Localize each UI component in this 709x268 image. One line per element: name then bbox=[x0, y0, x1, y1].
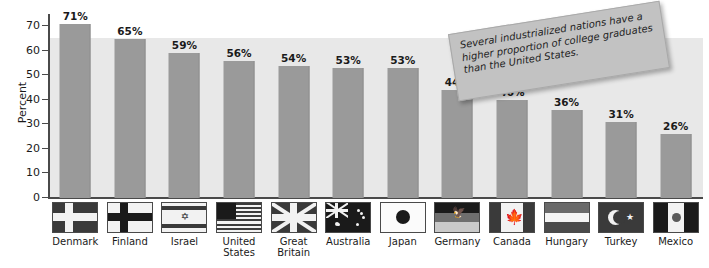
flag-australia-icon bbox=[325, 202, 371, 233]
bar bbox=[660, 134, 691, 198]
bar-group: 65% bbox=[103, 14, 158, 198]
category-cell: 🦅Germany bbox=[430, 202, 485, 247]
category-axis-labels: DenmarkFinland✡IsraelUnited StatesGreat … bbox=[48, 202, 703, 268]
flag-turkey-icon: ★ bbox=[598, 202, 644, 233]
category-cell: Denmark bbox=[48, 202, 103, 247]
bar-group: 53% bbox=[321, 14, 376, 198]
y-tick-label: 0 bbox=[14, 191, 40, 204]
category-label: Israel bbox=[157, 236, 212, 247]
flag-israel-icon: ✡ bbox=[161, 202, 207, 233]
category-label: Germany bbox=[430, 236, 485, 247]
bar-value-label: 53% bbox=[336, 54, 361, 66]
category-label: Canada bbox=[485, 236, 540, 247]
bar-group: 54% bbox=[266, 14, 321, 198]
category-cell: 🍁Canada bbox=[485, 202, 540, 247]
flag-canada-icon: 🍁 bbox=[489, 202, 535, 233]
flag-great-britain-icon bbox=[271, 202, 317, 233]
category-label: Great Britain bbox=[266, 236, 321, 258]
bar-value-label: 31% bbox=[609, 108, 634, 120]
bar bbox=[442, 90, 473, 198]
flag-united-states-icon bbox=[216, 202, 262, 233]
bar-value-label: 71% bbox=[63, 10, 88, 22]
bar-value-label: 59% bbox=[172, 39, 197, 51]
category-cell: ✡Israel bbox=[157, 202, 212, 247]
bar bbox=[278, 66, 309, 198]
bar-group: 56% bbox=[212, 14, 267, 198]
category-cell: Great Britain bbox=[266, 202, 321, 258]
bar bbox=[387, 68, 418, 198]
y-tick-label: 20 bbox=[14, 142, 40, 155]
bar bbox=[333, 68, 364, 198]
category-label: Denmark bbox=[48, 236, 103, 247]
bar bbox=[551, 110, 582, 198]
y-tick-label: 70 bbox=[14, 19, 40, 32]
y-tick-label: 10 bbox=[14, 166, 40, 179]
category-label: Turkey bbox=[594, 236, 649, 247]
category-label: Finland bbox=[103, 236, 158, 247]
category-cell: ★Turkey bbox=[594, 202, 649, 247]
bar bbox=[496, 100, 527, 198]
bar-value-label: 56% bbox=[226, 47, 251, 59]
flag-japan-icon bbox=[380, 202, 426, 233]
flag-hungary-icon bbox=[544, 202, 590, 233]
y-axis-title: Percent bbox=[16, 63, 29, 143]
category-label: Mexico bbox=[648, 236, 703, 247]
bar-value-label: 26% bbox=[663, 120, 688, 132]
category-cell: Japan bbox=[376, 202, 431, 247]
category-label: Japan bbox=[376, 236, 431, 247]
chart-figure: 706050403020100 Percent 71%65%59%56%54%5… bbox=[0, 0, 709, 268]
category-label: Australia bbox=[321, 236, 376, 247]
y-tick-label: 60 bbox=[14, 44, 40, 57]
category-label: Hungary bbox=[539, 236, 594, 247]
category-cell: Finland bbox=[103, 202, 158, 247]
bar bbox=[169, 53, 200, 198]
bar bbox=[224, 61, 255, 198]
bar-value-label: 54% bbox=[281, 52, 306, 64]
flag-finland-icon bbox=[107, 202, 153, 233]
bar bbox=[606, 122, 637, 198]
category-label: United States bbox=[212, 236, 267, 258]
flag-germany-icon: 🦅 bbox=[434, 202, 480, 233]
bar bbox=[114, 39, 145, 198]
bar-group: 53% bbox=[376, 14, 431, 198]
bar-value-label: 36% bbox=[554, 96, 579, 108]
bar-group: 71% bbox=[48, 14, 103, 198]
bar-value-label: 65% bbox=[117, 25, 142, 37]
category-cell: United States bbox=[212, 202, 267, 258]
category-cell: Mexico bbox=[648, 202, 703, 247]
flag-denmark-icon bbox=[52, 202, 98, 233]
flag-mexico-icon bbox=[653, 202, 699, 233]
category-cell: Hungary bbox=[539, 202, 594, 247]
bar bbox=[60, 24, 91, 198]
bar-group: 59% bbox=[157, 14, 212, 198]
bar-value-label: 53% bbox=[390, 54, 415, 66]
category-cell: Australia bbox=[321, 202, 376, 247]
